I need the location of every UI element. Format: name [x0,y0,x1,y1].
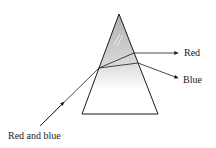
incident-label: Red and blue [8,131,61,141]
incident-ray-arrow [40,102,64,126]
blue-emergent-ray [138,63,178,78]
prism [82,14,158,114]
red-label: Red [184,48,200,58]
blue-label: Blue [183,75,202,85]
